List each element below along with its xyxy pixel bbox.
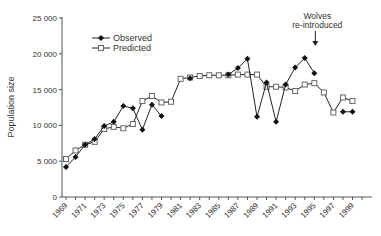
predicted-marker <box>340 95 345 100</box>
chart: 05 00010 00015 00020 00025 0001969197119… <box>0 0 381 236</box>
y-tick-label: 25 000 <box>33 14 58 23</box>
x-tick-label: 1989 <box>241 201 260 220</box>
y-tick-label: 10 000 <box>33 121 58 130</box>
observed-marker <box>98 35 104 41</box>
y-tick-label: 15 000 <box>33 86 58 95</box>
series-line <box>228 58 314 122</box>
y-tick-label: 20 000 <box>33 50 58 59</box>
observed-marker <box>254 114 260 120</box>
x-tick-label: 1993 <box>280 201 299 220</box>
x-tick-label: 1977 <box>127 201 146 220</box>
predicted-marker <box>159 100 164 105</box>
y-tick-label: 5 000 <box>37 157 58 166</box>
line-chart: 05 00010 00015 00020 00025 0001969197119… <box>0 0 381 236</box>
predicted-marker <box>178 76 183 81</box>
observed-marker <box>120 103 126 109</box>
predicted-marker <box>140 99 145 104</box>
predicted-marker <box>245 72 250 77</box>
predicted-marker <box>321 90 326 95</box>
predicted-marker <box>331 110 336 115</box>
predicted-marker <box>312 81 317 86</box>
x-tick-label: 1995 <box>299 201 318 220</box>
predicted-marker <box>197 73 202 78</box>
arrow-head-icon <box>312 41 318 46</box>
predicted-marker <box>73 148 78 153</box>
predicted-marker <box>121 126 126 131</box>
x-tick-label: 1971 <box>70 201 89 220</box>
observed-marker <box>340 109 346 115</box>
legend-label: Observed <box>113 33 152 43</box>
predicted-marker <box>169 99 174 104</box>
series-line <box>66 75 353 159</box>
observed-marker <box>273 119 279 125</box>
x-tick-label: 1991 <box>261 201 280 220</box>
x-tick-label: 1985 <box>203 201 222 220</box>
observed-marker <box>139 127 145 133</box>
predicted-marker <box>274 84 279 89</box>
predicted-marker <box>64 157 69 162</box>
predicted-marker <box>207 73 212 78</box>
x-tick-label: 1973 <box>89 201 108 220</box>
annotation-text: re-introduced <box>292 20 342 30</box>
predicted-marker <box>302 82 307 87</box>
x-tick-label: 1981 <box>165 201 184 220</box>
series-line <box>66 105 162 167</box>
predicted-marker <box>111 124 116 129</box>
x-tick-label: 1979 <box>146 201 165 220</box>
predicted-marker <box>293 89 298 94</box>
x-tick-label: 1987 <box>222 201 241 220</box>
x-tick-label: 1969 <box>50 201 69 220</box>
predicted-marker <box>149 94 154 99</box>
y-axis-label: Population size <box>6 76 16 137</box>
legend-label: Predicted <box>113 43 151 53</box>
predicted-marker <box>350 99 355 104</box>
x-tick-label: 1997 <box>318 201 337 220</box>
x-tick-label: 1975 <box>108 201 127 220</box>
predicted-marker <box>99 46 104 51</box>
predicted-marker <box>255 72 260 77</box>
y-tick-label: 0 <box>53 193 58 202</box>
observed-marker <box>350 109 356 115</box>
x-tick-label: 1983 <box>184 201 203 220</box>
observed-marker <box>311 70 317 76</box>
predicted-marker <box>216 73 221 78</box>
observed-marker <box>130 105 136 111</box>
x-tick-label: 1999 <box>337 201 356 220</box>
predicted-marker <box>235 72 240 77</box>
predicted-marker <box>130 121 135 126</box>
